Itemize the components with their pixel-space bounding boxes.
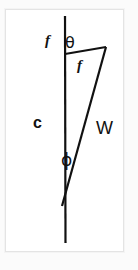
label-weight-w: W xyxy=(96,119,113,137)
label-chord-c: c xyxy=(33,115,42,131)
label-force-inner: f xyxy=(77,58,82,73)
label-angle-phi: ϕ xyxy=(61,152,72,169)
label-force-top: f xyxy=(45,33,50,48)
figure-root: f θ f c W ϕ xyxy=(0,0,138,270)
label-angle-theta: θ xyxy=(65,35,75,51)
